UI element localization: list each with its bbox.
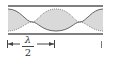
arrowhead-right-icon [49,42,54,46]
arrowhead-left-icon [8,42,13,46]
lambda-label: λ [22,35,34,45]
standing-wave-diagram [0,0,114,60]
wave-envelope-fill [8,9,103,31]
denominator-label: 2 [22,48,34,58]
